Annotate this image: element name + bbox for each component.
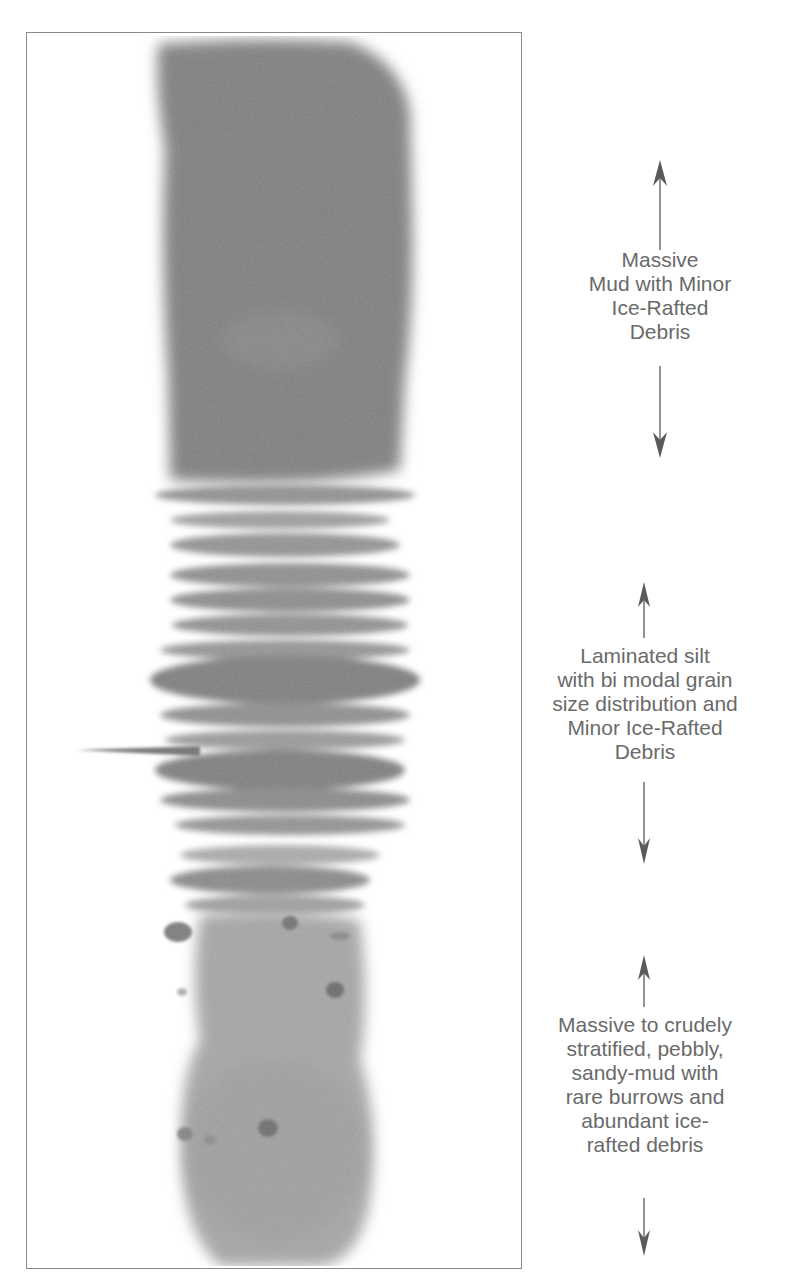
arrow-up-icon bbox=[634, 582, 654, 638]
label-line: with bi modal grain bbox=[510, 668, 780, 692]
label-line: Massive to crudely bbox=[510, 1013, 780, 1037]
label-line: Mud with Minor bbox=[525, 272, 787, 296]
arrow-up-icon bbox=[650, 160, 670, 250]
arrow-up-icon bbox=[634, 955, 654, 1007]
arrow-down-icon bbox=[634, 782, 654, 864]
label-line: abundant ice- bbox=[510, 1109, 780, 1133]
label-line: Massive bbox=[525, 248, 787, 272]
arrow-down-icon bbox=[634, 1198, 654, 1256]
label-line: size distribution and bbox=[510, 692, 780, 716]
label-line: stratified, pebbly, bbox=[510, 1037, 780, 1061]
label-line: Ice-Rafted bbox=[525, 296, 787, 320]
label-line: Minor Ice-Rafted bbox=[510, 716, 780, 740]
arrow-down-icon bbox=[650, 366, 670, 458]
label-line: sandy-mud with bbox=[510, 1061, 780, 1085]
label-line: Debris bbox=[525, 320, 787, 344]
label-line: Debris bbox=[510, 740, 780, 764]
label-line: Laminated silt bbox=[510, 644, 780, 668]
unit-label-lower: Massive to crudely stratified, pebbly, s… bbox=[510, 955, 780, 1275]
label-line: rafted debris bbox=[510, 1133, 780, 1157]
label-line: rare burrows and bbox=[510, 1085, 780, 1109]
unit-label-middle: Laminated silt with bi modal grain size … bbox=[510, 582, 780, 882]
unit-label-upper: Massive Mud with Minor Ice-Rafted Debris bbox=[525, 160, 787, 460]
